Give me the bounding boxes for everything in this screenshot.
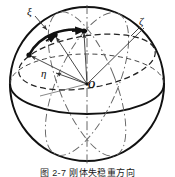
vector-zeta-axis: [87, 28, 144, 84]
vector-eta-axis: [56, 73, 87, 84]
arc-arrow-b: [72, 30, 85, 31]
motion-arc-thick: [29, 30, 86, 55]
figure-caption: 图 2-7 刚体失稳重方向: [0, 168, 175, 177]
vector-to-arc-start: [31, 56, 87, 84]
origin-label: O: [88, 80, 95, 90]
axis-label-xi: ξ: [27, 6, 32, 17]
axis-label-zeta: ζ: [139, 16, 143, 27]
leader-line-zeta: [131, 27, 140, 36]
figure-container: ξ ζ η O 图 2-7 刚体失稳重方向: [0, 0, 175, 177]
vector-lower-left: [40, 84, 87, 96]
axis-label-eta: η: [41, 68, 46, 79]
vector-to-arc-middle: [56, 37, 87, 84]
arc-point-start: [26, 52, 31, 57]
